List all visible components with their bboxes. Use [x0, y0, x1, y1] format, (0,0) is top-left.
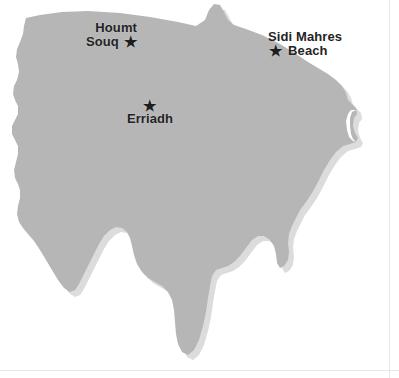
map-marker-label-houmt-souq-line2-text: Souq [86, 34, 119, 49]
map-marker-sidi-mahres-beach[interactable]: Sidi Mahres ★Beach [268, 30, 342, 58]
page-border-right [389, 0, 390, 378]
map-marker-label-sidi-mahres-beach-line2: ★Beach [269, 44, 342, 58]
star-marker-icon: ★ [269, 44, 282, 57]
map-marker-houmt-souq[interactable]: Houmt Souq★ [86, 21, 137, 49]
map-marker-label-sidi-mahres-beach-line2-text: Beach [288, 43, 328, 58]
page-border-bottom [0, 370, 399, 371]
map-figure: Houmt Souq★ Sidi Mahres ★Beach ★ Erriadh [0, 0, 399, 378]
map-marker-label-houmt-souq-line2: Souq★ [86, 35, 137, 49]
map-marker-erriadh[interactable]: ★ Erriadh [118, 99, 182, 126]
star-marker-icon: ★ [124, 35, 137, 48]
map-marker-label-erriadh: Erriadh [118, 112, 182, 126]
